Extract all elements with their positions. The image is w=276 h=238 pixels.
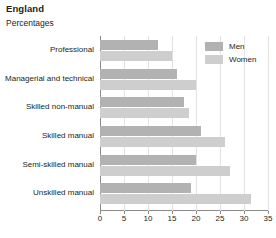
bar-group bbox=[100, 155, 268, 176]
x-axis-tick-label: 20 bbox=[192, 214, 201, 223]
x-axis-line bbox=[100, 210, 268, 211]
bar-men bbox=[100, 97, 184, 107]
x-axis-tick-label: 0 bbox=[98, 214, 102, 223]
bar-group bbox=[100, 97, 268, 118]
category-label: Semi-skilled manual bbox=[22, 160, 94, 169]
bar-group bbox=[100, 126, 268, 147]
page-title: England bbox=[6, 3, 44, 14]
category-label: Skilled manual bbox=[42, 131, 94, 140]
bar-men bbox=[100, 40, 158, 50]
x-axis-tick-label: 35 bbox=[264, 214, 273, 223]
bar-women bbox=[100, 108, 189, 118]
bar-men bbox=[100, 155, 196, 165]
bar-group bbox=[100, 183, 268, 204]
x-axis-tick-label: 15 bbox=[168, 214, 177, 223]
category-label: Professional bbox=[50, 45, 94, 54]
category-label: Skilled non-manual bbox=[26, 102, 94, 111]
legend-item-men: Men bbox=[205, 41, 273, 54]
chart-subtitle: Percentages bbox=[6, 18, 54, 28]
bar-women bbox=[100, 137, 225, 147]
chart-container: England Percentages Men Women 0510152025… bbox=[0, 0, 276, 238]
legend-label-women: Women bbox=[229, 54, 256, 65]
x-axis-tick-label: 5 bbox=[122, 214, 126, 223]
bar-women bbox=[100, 51, 172, 61]
bar-women bbox=[100, 80, 196, 90]
bar-men bbox=[100, 183, 191, 193]
bar-men bbox=[100, 126, 201, 136]
category-label: Unskilled manual bbox=[33, 188, 94, 197]
x-axis-tick-label: 10 bbox=[144, 214, 153, 223]
bar-women bbox=[100, 166, 230, 176]
x-axis-tick-label: 30 bbox=[240, 214, 249, 223]
legend-label-men: Men bbox=[229, 41, 245, 52]
bar-women bbox=[100, 194, 251, 204]
bar-group bbox=[100, 69, 268, 90]
bar-men bbox=[100, 69, 177, 79]
legend-swatch-men-icon bbox=[205, 42, 223, 51]
legend-swatch-women-icon bbox=[205, 55, 223, 64]
legend-item-women: Women bbox=[205, 54, 273, 67]
chart-legend: Men Women bbox=[205, 41, 273, 67]
x-axis-tick-label: 25 bbox=[216, 214, 225, 223]
category-label: Managerial and technical bbox=[5, 74, 94, 83]
